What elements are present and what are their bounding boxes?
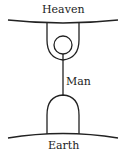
heaven-line: [8, 20, 118, 23]
earth-label: Earth: [48, 140, 79, 151]
man-head-circle: [54, 36, 72, 54]
heaven-man-earth-diagram: [0, 0, 126, 155]
earth-line: [8, 134, 118, 139]
heaven-label: Heaven: [42, 4, 84, 15]
man-label: Man: [66, 76, 91, 87]
earth-arch: [47, 95, 79, 134]
